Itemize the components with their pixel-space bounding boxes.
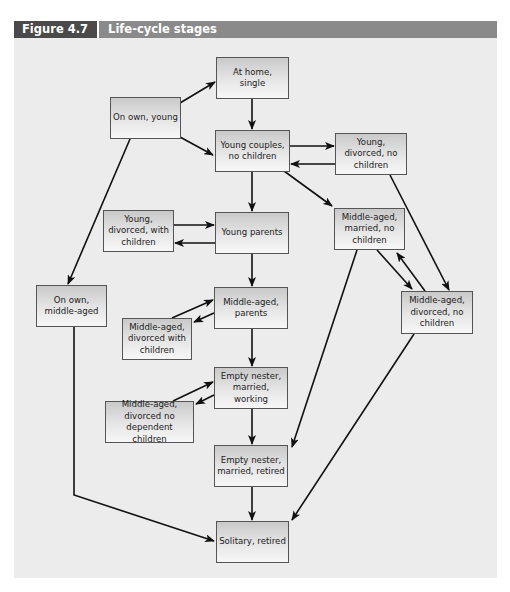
edge-onownyoung-athome xyxy=(180,82,215,103)
node-empty-nester-married-working: Empty nester, married, working xyxy=(214,367,288,409)
node-on-own-young: On own, young xyxy=(110,97,181,139)
edge-onownyoung-youngcouples xyxy=(180,137,213,155)
edge-middlemarried-middledivorced xyxy=(377,250,412,289)
node-empty-nester-married-retired: Empty nester, married, retired xyxy=(214,445,288,487)
node-middle-aged-parents: Middle-aged, parents xyxy=(214,287,288,329)
node-middle-aged-divorced-no-children: Middle-aged, divorced, no children xyxy=(401,291,473,334)
edge-youngcouples-middlemarried xyxy=(284,171,332,206)
edge-middledivorced-middlemarried xyxy=(397,253,425,291)
edge-middledivorced-solitary xyxy=(292,334,414,520)
edge-middlemarried-emptyretired xyxy=(292,250,357,447)
edge-emptyworking-middledivnodep xyxy=(196,395,214,404)
node-middle-aged-divorced-no-dependent-children: Middle-aged, divorced no dependent child… xyxy=(105,401,194,443)
node-young-couples-no-children: Young couples, no children xyxy=(215,130,290,172)
node-at-home-single: At home, single xyxy=(216,57,289,99)
node-young-divorced-no-children: Young, divorced, no children xyxy=(335,133,407,175)
node-on-own-middle-aged: On own, middle-aged xyxy=(36,285,107,327)
node-solitary-retired: Solitary, retired xyxy=(216,521,289,563)
node-young-divorced-with-children: Young, divorced, with children xyxy=(103,210,174,252)
node-middle-aged-married-no-children: Middle-aged, married, no children xyxy=(334,208,405,250)
edge-middledivwithchildren-middleparents xyxy=(172,300,213,318)
node-middle-aged-divorced-with-children: Middle-aged, divorced with children xyxy=(122,318,192,360)
edge-middleparents-middledivwithchildren xyxy=(194,313,214,322)
node-young-parents: Young parents xyxy=(215,212,289,254)
